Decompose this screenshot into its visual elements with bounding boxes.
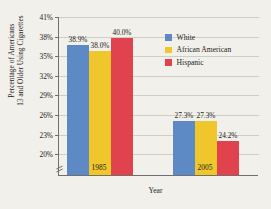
ytick-20 xyxy=(55,154,59,155)
bar-1985-white xyxy=(67,45,89,175)
legend-label-white: White xyxy=(177,33,196,42)
white-swatch-icon xyxy=(165,34,172,41)
bar-2005-white xyxy=(173,121,195,175)
ytick-label-29: 29% xyxy=(39,91,53,100)
ytick-23 xyxy=(55,135,59,136)
legend-item-hispanic: Hispanic xyxy=(165,56,231,69)
bar-2005-hispanic xyxy=(217,141,239,175)
bar-label-2005-hispanic: 24.2% xyxy=(219,131,238,140)
ytick-label-38: 38% xyxy=(39,32,53,41)
xtick-label-2005: 2005 xyxy=(198,163,213,172)
ytick-label-35: 35% xyxy=(39,52,53,61)
ytick-38 xyxy=(55,37,59,38)
y-axis-title-line1: Percentage of Americans xyxy=(8,0,17,141)
ytick-26 xyxy=(55,115,59,116)
ytick-label-20: 20% xyxy=(39,150,53,159)
ytick-32 xyxy=(55,76,59,77)
bar-label-1985-african-american: 38.0% xyxy=(91,41,110,50)
plot-area: 41% 38% 35% 32% 29% 26% 23% 20% 38.9% 38… xyxy=(58,17,258,176)
hispanic-swatch-icon xyxy=(165,59,172,66)
legend-item-white: White xyxy=(165,31,231,44)
legend-label-african-american: African American xyxy=(177,45,232,54)
y-axis-title: Percentage of Americans 13 and Older Usi… xyxy=(8,0,25,141)
ytick-29 xyxy=(55,95,59,96)
ytick-label-41: 41% xyxy=(39,13,53,22)
ytick-label-32: 32% xyxy=(39,71,53,80)
gridline-41 xyxy=(59,17,259,18)
xtick-label-1985: 1985 xyxy=(92,163,107,172)
bar-chart: Percentage of Americans 13 and Older Usi… xyxy=(0,0,271,209)
african-american-swatch-icon xyxy=(165,47,172,54)
x-axis-title: Year xyxy=(0,186,271,195)
bar-label-2005-african-american: 27.3% xyxy=(197,111,216,120)
bar-label-1985-hispanic: 40.0% xyxy=(113,28,132,37)
x-axis-title-text: Year xyxy=(109,186,163,195)
ytick-41 xyxy=(55,17,59,18)
legend-label-hispanic: Hispanic xyxy=(177,58,204,67)
bar-1985-african-american xyxy=(89,51,111,175)
legend: White African American Hispanic xyxy=(165,31,231,69)
ytick-label-23: 23% xyxy=(39,130,53,139)
bar-1985-hispanic xyxy=(111,38,133,175)
legend-item-african-american: African American xyxy=(165,44,231,57)
bar-label-1985-white: 38.9% xyxy=(69,35,88,44)
axis-break-icon xyxy=(56,165,63,173)
y-axis-title-line2: 13 and Older Using Cigarettes xyxy=(17,0,26,141)
bar-label-2005-white: 27.3% xyxy=(175,111,194,120)
ytick-35 xyxy=(55,56,59,57)
ytick-label-26: 26% xyxy=(39,111,53,120)
